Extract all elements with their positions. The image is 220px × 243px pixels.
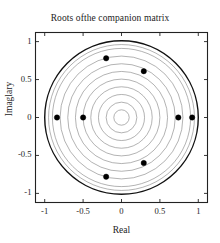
- data-point-5: [189, 115, 194, 120]
- y-tick-label-0: -1: [6, 188, 32, 197]
- x-tick-label-0: -1: [30, 207, 60, 216]
- axes-frame: [36, 33, 208, 203]
- data-point-7: [103, 174, 108, 179]
- data-point-3: [141, 69, 146, 74]
- y-tick-label-1: -0.5: [6, 150, 32, 159]
- data-point-0: [54, 115, 59, 120]
- data-point-4: [176, 115, 181, 120]
- figure-container: Roots ofthe companion matrix Imaglary Re…: [0, 0, 220, 243]
- x-tick-label-2: 0: [107, 207, 137, 216]
- y-tick-label-4: 1: [6, 37, 32, 46]
- y-tick-label-2: 0: [6, 113, 32, 122]
- data-point-1: [80, 115, 85, 120]
- x-tick-label-1: -0.5: [68, 207, 98, 216]
- y-tick-label-3: 0.5: [6, 75, 32, 84]
- data-point-2: [103, 56, 108, 61]
- x-tick-label-4: 1: [183, 207, 213, 216]
- x-tick-label-3: 0.5: [145, 207, 175, 216]
- data-point-6: [141, 160, 146, 165]
